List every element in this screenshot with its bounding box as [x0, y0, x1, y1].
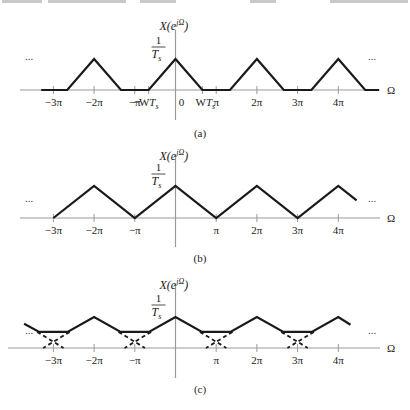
panel-caption: (a) — [194, 127, 207, 140]
ellipsis-left: ... — [25, 50, 34, 62]
x-tick-label: −3π — [45, 354, 63, 366]
x-tick-label: 4π — [333, 354, 345, 366]
x-tick-label: −2π — [85, 224, 103, 236]
peak-label-denominator: Ts — [152, 305, 162, 321]
x-tick-label: 3π — [292, 224, 304, 236]
panel-c: −3π−2π−ππ2π3π4πΩX(ejΩ)1Ts......(c) — [8, 277, 395, 396]
x-tick-label: −3π — [45, 96, 63, 108]
x-tick-label: 4π — [333, 224, 345, 236]
x-tick-label: π — [213, 224, 219, 236]
aliased-replica-dashed — [43, 332, 69, 348]
spectrum-figure: −3π−2π−π−WTs0WTsπ2π3π4πΩX(ejΩ)1Ts......(… — [0, 0, 410, 410]
x-tick-label: −2π — [85, 354, 103, 366]
aliased-replica-dashed — [281, 332, 307, 348]
ellipsis-right: ... — [368, 324, 377, 336]
aliased-replica-dashed — [287, 332, 313, 348]
peak-label-numerator: 1 — [156, 161, 162, 173]
magnitude-axis-label: X(ejΩ) — [159, 18, 189, 33]
x-tick-label: 4π — [333, 96, 345, 108]
x-tick-label: −π — [129, 354, 141, 366]
x-tick-label: π — [213, 354, 219, 366]
ellipsis-left: ... — [25, 192, 34, 204]
x-tick-label: 3π — [292, 354, 304, 366]
omega-axis-label: Ω — [387, 212, 395, 224]
spectrum-curve — [24, 317, 350, 332]
x-tick-label: 3π — [292, 96, 304, 108]
magnitude-axis-label: X(ejΩ) — [159, 277, 189, 292]
x-tick-label: π — [213, 96, 219, 108]
x-tick-label: 2π — [251, 96, 263, 108]
panel-caption: (c) — [194, 383, 207, 396]
x-tick-label: 0 — [179, 96, 185, 108]
x-tick-label: −WTs — [133, 96, 159, 111]
x-tick-label: 2π — [251, 224, 263, 236]
x-tick-label: −3π — [45, 224, 63, 236]
aliased-replica-dashed — [200, 332, 226, 348]
aliased-replica-dashed — [206, 332, 232, 348]
x-tick-label: 2π — [251, 354, 263, 366]
ellipsis-right: ... — [368, 50, 377, 62]
aliased-replica-dashed — [119, 332, 145, 348]
spectrum-curve — [41, 59, 379, 90]
x-tick-label: WTs — [196, 96, 216, 111]
x-tick-label: −2π — [85, 96, 103, 108]
panel-caption: (b) — [194, 252, 207, 265]
peak-label-denominator: Ts — [152, 47, 162, 63]
aliased-replica-dashed — [37, 332, 63, 348]
panel-a: −3π−2π−π−WTs0WTsπ2π3π4πΩX(ejΩ)1Ts......(… — [20, 18, 395, 140]
panel-b: −3π−2π−ππ2π3π4πΩX(ejΩ)1Ts......(b) — [20, 148, 395, 265]
spectrum-curve — [53, 186, 356, 218]
aliased-replica-dashed — [125, 332, 151, 348]
peak-label-numerator: 1 — [156, 292, 162, 304]
magnitude-axis-label: X(ejΩ) — [159, 148, 189, 163]
x-tick-label: −π — [129, 224, 141, 236]
omega-axis-label: Ω — [387, 342, 395, 354]
peak-label-denominator: Ts — [152, 174, 162, 190]
ellipsis-right: ... — [368, 192, 377, 204]
peak-label-numerator: 1 — [156, 34, 162, 46]
omega-axis-label: Ω — [387, 84, 395, 96]
